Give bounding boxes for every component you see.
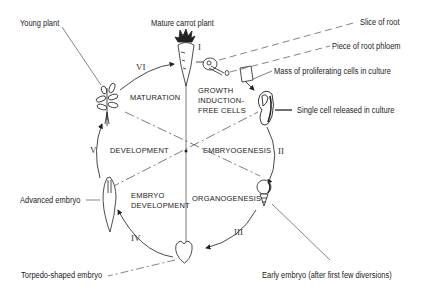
segment-embryo-development: EMBRYO DEVELOPMENT: [131, 191, 190, 211]
cell-mass-icon: [240, 66, 253, 82]
single-cell-icon: [258, 91, 273, 125]
label-single-cell: Single cell released in culture: [297, 105, 394, 115]
leader-young-plant: [62, 27, 101, 85]
cycle-arrows: [96, 64, 274, 257]
young-plant-icon: [95, 82, 118, 126]
leader-early-embryo: [272, 204, 330, 260]
segment-maturation: MATURATION: [130, 93, 180, 103]
leader-torpedo-embryo: [108, 260, 175, 276]
arrow-iii: [206, 210, 256, 248]
root-slice-icon: [203, 58, 229, 76]
carrot-icon: [175, 29, 195, 86]
arrow-vi: [120, 64, 174, 90]
heart-embryo-icon: [176, 241, 192, 263]
arrow-v: [96, 124, 102, 178]
label-early-embryo: Early embryo (after first few diversions…: [262, 270, 392, 280]
segment-development: DEVELOPMENT: [110, 146, 169, 156]
label-young-plant: Young plant: [20, 18, 59, 28]
label-root-phloem: Piece of root phloem: [332, 41, 401, 51]
step-vi: VI: [136, 62, 146, 72]
center-point: [185, 150, 188, 153]
step-iv: IV: [131, 233, 141, 243]
segment-organogenesis: ORGANOGENESIS: [192, 194, 261, 204]
step-ii: II: [278, 146, 284, 156]
arrow-iv: [118, 210, 173, 257]
advanced-embryo-icon: [103, 177, 116, 232]
leader-cell-mass: [253, 71, 272, 79]
segment-growth-induction: GROWTH INDUCTION- FREE CELLS: [198, 86, 246, 116]
label-mature-carrot: Mature carrot plant: [151, 18, 214, 28]
label-cell-mass: Mass of proliferating cells in culture: [274, 66, 391, 76]
label-slice-of-root: Slice of root: [360, 17, 400, 27]
segment-embryogenesis: EMBRYOGENESIS: [203, 146, 271, 156]
step-v: V: [90, 145, 97, 155]
label-advanced-embryo: Advanced embryo: [20, 195, 80, 205]
step-iii: III: [234, 227, 243, 237]
step-i: I: [198, 42, 201, 52]
label-torpedo-embryo: Torpedo-shaped embryo: [21, 270, 102, 280]
